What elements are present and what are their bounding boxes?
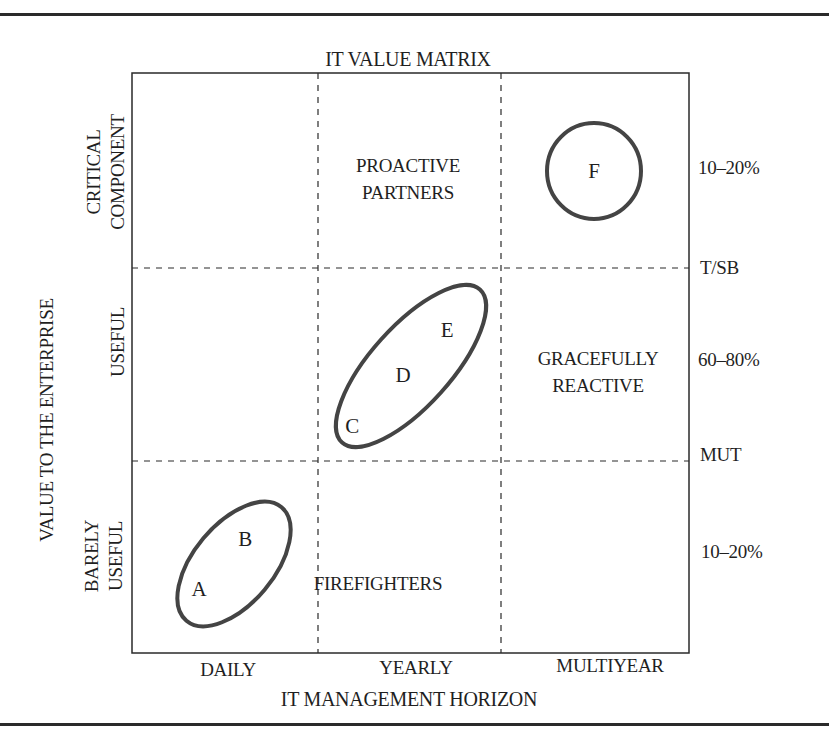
y-tick-barely-line1: BARELY (80, 520, 104, 592)
point-e: E (441, 319, 454, 341)
point-a: A (192, 578, 207, 600)
quadrant-label-gracefully-reactive: GRACEFULLY REACTIVE (538, 345, 659, 399)
y-tick-critical-component: CRITICAL COMPONENT (82, 114, 130, 230)
point-f: F (588, 160, 599, 182)
point-d: D (396, 364, 411, 386)
cluster-ab-ellipse (156, 482, 312, 647)
x-axis-label: IT MANAGEMENT HORIZON (281, 688, 537, 710)
y-tick-barely-useful: BARELY USEFUL (80, 520, 128, 592)
right-label-mut: MUT (700, 444, 741, 466)
quadrant-label-firefighters: FIREFIGHTERS (314, 573, 442, 595)
x-tick-multiyear: MULTIYEAR (556, 655, 663, 677)
point-c: C (345, 415, 359, 437)
quadrant-label-proactive-partners: PROACTIVE PARTNERS (356, 152, 460, 206)
right-label-tsb: T/SB (700, 257, 739, 279)
right-label-bottom-pct: 10–20% (701, 541, 763, 563)
y-tick-critical-line2: COMPONENT (106, 114, 130, 230)
y-tick-barely-line2: USEFUL (104, 520, 128, 592)
y-tick-critical-line1: CRITICAL (82, 114, 106, 230)
proactive-line2: PARTNERS (356, 179, 460, 206)
right-label-middle-pct: 60–80% (698, 349, 760, 371)
proactive-line1: PROACTIVE (356, 152, 460, 179)
x-tick-yearly: YEARLY (379, 657, 452, 679)
y-tick-useful: USEFUL (106, 307, 130, 377)
x-tick-daily: DAILY (200, 659, 256, 681)
point-b: B (238, 528, 252, 550)
right-label-top-pct: 10–20% (698, 157, 760, 179)
y-axis-label: VALUE TO THE ENTERPRISE (35, 298, 59, 541)
cluster-cde-ellipse (312, 263, 509, 470)
graceful-line2: REACTIVE (538, 372, 659, 399)
y-tick-useful-line1: USEFUL (106, 307, 130, 377)
graceful-line1: GRACEFULLY (538, 345, 659, 372)
